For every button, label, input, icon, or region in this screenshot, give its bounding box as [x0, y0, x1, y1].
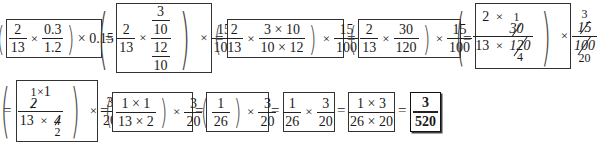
denominator: 13 × 2	[116, 114, 156, 129]
struck-value: 2	[30, 98, 37, 110]
numerator: 1 2 ×1	[28, 84, 53, 110]
numerator: 3	[420, 95, 431, 110]
denominator: 100 20	[572, 38, 597, 64]
numerator: 2 × 1 30	[480, 9, 525, 35]
fraction-bar	[360, 38, 378, 39]
numerator: 2	[229, 22, 240, 37]
cancelled-factor: 1 30	[510, 12, 524, 35]
paren-group: ( 1 26 )	[198, 92, 245, 132]
cancelled-factor: 1 2	[30, 87, 37, 110]
step-9-expression: 1 26 × 3 20	[282, 96, 335, 129]
fraction-bar	[394, 38, 419, 39]
step-10-expression: 1 × 3 26 × 20	[347, 96, 396, 129]
denominator: 520	[413, 114, 438, 129]
fraction: 3 20	[317, 96, 335, 129]
fraction-bar	[413, 111, 438, 113]
replacement-value: 4	[517, 52, 523, 63]
denominator: 13 × 4 2	[18, 113, 63, 138]
factor: 13	[475, 38, 489, 53]
replacement-value: 2	[55, 127, 61, 138]
numerator: 1 × 3	[355, 96, 388, 111]
fraction: 1 × 1 13 × 2	[116, 96, 156, 129]
denominator: 13	[360, 40, 378, 55]
numerator: 1 × 1	[119, 96, 152, 111]
paren-group: ( 2 13 × 0.3 1.2 )	[0, 19, 78, 59]
step-3-expression: ( 2 13 × 3 × 10 10 × 12 ) × 15 100	[211, 19, 360, 59]
fraction-bar	[348, 112, 395, 113]
fraction-bar	[152, 20, 170, 21]
struck-value: 15	[578, 20, 592, 35]
paren-group: ( 2 13 × 30 120 )	[346, 19, 433, 59]
paren-group: ( 1 2 ×1 13 × 4 2 )	[0, 77, 87, 145]
left-paren: (	[214, 19, 221, 59]
step-1-box: ( 2 13 × 0.3 1.2 ) × 0.15	[6, 19, 102, 58]
denominator: 10	[152, 58, 170, 73]
numerator: 3	[320, 96, 331, 111]
struck-value: 4	[54, 115, 61, 127]
step-6-box: ( 1 2 ×1 13 × 4 2 )	[16, 80, 98, 142]
times-operator: ×	[173, 104, 180, 120]
paren-group: ( 1 × 1 13 × 2 )	[102, 92, 170, 132]
times-operator: ×	[247, 104, 254, 120]
denominator: 10 × 12	[259, 40, 306, 55]
step-5-box: ( 2 × 1 30 13 × 120 4	[475, 3, 571, 69]
fraction-bar	[116, 112, 156, 113]
struck-value: 100	[574, 38, 595, 53]
step-4-box: ( 2 13 × 30 120 ) × 15 100	[358, 19, 461, 58]
denominator: 1.2	[42, 40, 64, 55]
numerator: 12	[152, 40, 170, 55]
paren-group: ( 2 13 × 3 10 12 10 )	[90, 0, 197, 77]
right-paren: )	[160, 92, 167, 132]
equals-sign: =	[271, 103, 279, 118]
replacement-value: 20	[579, 53, 591, 64]
numerator: 30	[397, 22, 415, 37]
right-paren: )	[179, 0, 189, 77]
fraction-bar	[212, 112, 230, 113]
fraction-bar	[225, 38, 243, 39]
final-answer-box: 3 520	[410, 92, 441, 132]
denominator: 26	[283, 114, 301, 129]
step-11-expression: 3 520	[412, 95, 439, 129]
fraction-bar	[283, 112, 301, 113]
times-operator: ×	[382, 31, 389, 47]
equals-sign: =	[398, 103, 406, 118]
numerator: 2	[12, 22, 23, 37]
fraction: 1 × 3 26 × 20	[348, 96, 395, 129]
right-paren: )	[541, 0, 551, 73]
denominator: 13	[225, 40, 243, 55]
fraction-bar	[152, 56, 170, 57]
denominator: 26	[212, 114, 230, 129]
fraction: 2 13	[225, 22, 243, 55]
left-paren: (	[98, 0, 108, 77]
fraction: 1 26	[283, 96, 301, 129]
numerator: 1	[215, 96, 226, 111]
step-7-box: ( 1 × 1 13 × 2 ) × 3 20	[112, 92, 193, 132]
left-paren: (	[349, 19, 356, 59]
compound-fraction: 3 10 12 10	[151, 4, 171, 73]
step-8-box: ( 1 26 ) × 3 20	[206, 92, 269, 132]
fraction-bar	[42, 38, 64, 39]
fraction: 0.3 1.2	[42, 22, 64, 55]
right-paren: )	[234, 92, 241, 132]
times-operator: ×	[90, 103, 97, 119]
step-9-box: 1 26 × 3 20	[283, 92, 335, 132]
numerator: 0.3	[42, 22, 64, 37]
left-paren: (	[1, 77, 10, 145]
numerator: 3 × 10	[262, 22, 302, 37]
fraction: 2 13	[360, 22, 378, 55]
denominator: 13 × 120 4	[473, 38, 532, 63]
times-operator: ×	[247, 31, 254, 47]
left-paren: (	[201, 92, 208, 132]
fraction-bar	[317, 112, 335, 113]
times-operator: ×	[561, 28, 568, 44]
times-operator: ×	[200, 30, 207, 46]
numerator: 3	[155, 4, 166, 19]
step-3-box: ( 2 13 × 3 × 10 10 × 12 ) × 15 100	[227, 19, 344, 58]
denominator: 120	[394, 40, 419, 55]
right-paren: )	[422, 19, 429, 59]
right-paren: )	[309, 19, 316, 59]
step-2-box: ( 2 13 × 3 10 12 10 )	[116, 3, 212, 73]
fraction-bar	[18, 111, 63, 112]
main-fraction-bar	[151, 38, 171, 39]
left-paren: (	[0, 19, 5, 59]
